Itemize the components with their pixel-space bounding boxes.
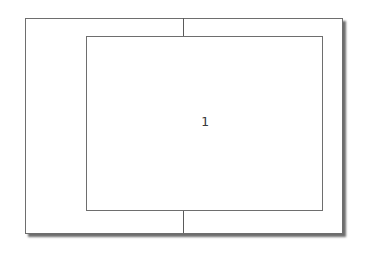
top-divider-line xyxy=(183,18,184,36)
frame-number-label: 1 xyxy=(198,114,212,130)
bottom-divider-line xyxy=(183,211,184,233)
